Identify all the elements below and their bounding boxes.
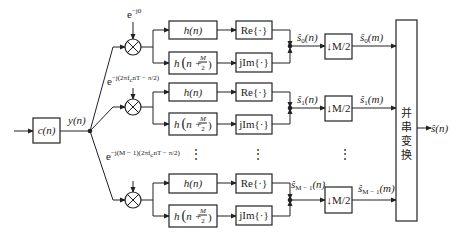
svg-text:ŝ1(m): ŝ1(m) (360, 93, 383, 107)
c-filter-label: c(n) (38, 124, 56, 137)
multiplier-icon (125, 99, 141, 115)
y-signal-label: y(n) (67, 114, 86, 127)
svg-text:2: 2 (201, 125, 205, 133)
svg-text:换: 换 (401, 148, 412, 162)
svg-text:h(n): h(n) (184, 86, 203, 99)
svg-text:2: 2 (201, 217, 205, 225)
branchM-exponent: e−j(M − 1)(2πfcnT − π/2) (106, 149, 181, 162)
svg-text:2: 2 (201, 64, 205, 72)
svg-text:h(n +: h(n + (174, 116, 202, 132)
svg-text:ŝ1(n): ŝ1(n) (297, 93, 318, 107)
branchM-feed (90, 131, 125, 200)
svg-text:Re{·}: Re{·} (241, 177, 267, 189)
ellipsis: ⋮ (339, 147, 351, 161)
svg-text:ŝ0(n): ŝ0(n) (297, 31, 318, 45)
svg-text:): ) (208, 211, 212, 224)
svg-text:): ) (208, 119, 212, 132)
svg-text:↓M/2: ↓M/2 (327, 102, 351, 114)
svg-text:h(n +: h(n + (174, 208, 202, 224)
branch0-feed (90, 47, 125, 131)
svg-text:并: 并 (401, 106, 412, 120)
svg-text:↓M/2: ↓M/2 (327, 194, 351, 206)
multiplier-icon (125, 39, 141, 55)
ellipsis: ⋮ (190, 147, 202, 161)
branch1-exponent: e−j(2πfcnT − π/2) (107, 74, 160, 87)
svg-text:串: 串 (401, 121, 412, 134)
svg-text:ŝM − 1(n): ŝM − 1(n) (291, 178, 326, 192)
parallel-to-serial-block: 并 串 变 换 (396, 20, 417, 221)
svg-text:↓M/2: ↓M/2 (327, 40, 351, 52)
c-filter-block: c(n) (33, 118, 60, 143)
svg-text:h(n +: h(n + (174, 55, 202, 71)
svg-text:ŝ0(m): ŝ0(m) (360, 31, 383, 45)
svg-text:h(n): h(n) (184, 24, 203, 37)
svg-text:ŝM − 1(m): ŝM − 1(m) (358, 182, 395, 196)
svg-text:M: M (199, 207, 207, 215)
branch-1: e−j(2πfcnT − π/2) h(n) h(n + M 2 ) Re{·}… (107, 74, 396, 135)
svg-text:): ) (208, 58, 212, 71)
ellipsis: ⋮ (252, 147, 264, 161)
final-output-label: ŝ(n) (431, 122, 448, 135)
svg-text:M: M (199, 54, 207, 62)
branch0-exponent: e−j0 (127, 7, 142, 20)
svg-text:变: 变 (401, 134, 412, 148)
svg-text:h(n): h(n) (184, 177, 203, 190)
multiplier-icon (125, 192, 141, 208)
branch-M-1: e−j(M − 1)(2πfcnT − π/2) h(n) h(n + M 2 … (106, 149, 396, 227)
svg-text:jIm{·}: jIm{·} (238, 118, 269, 130)
svg-text:Re{·}: Re{·} (241, 24, 267, 36)
svg-text:jIm{·}: jIm{·} (238, 209, 269, 221)
svg-text:jIm{·}: jIm{·} (238, 56, 269, 68)
branch-0: e−j0 h(n) h(n + M 2 ) Re{·} jIm{·} ŝ0(n)… (125, 7, 396, 74)
polyphase-demodulator-diagram: c(n) y(n) e−j0 h(n) h(n + M 2 ) Re{·} jI… (0, 0, 459, 246)
svg-text:M: M (199, 115, 207, 123)
svg-text:Re{·}: Re{·} (241, 86, 267, 98)
